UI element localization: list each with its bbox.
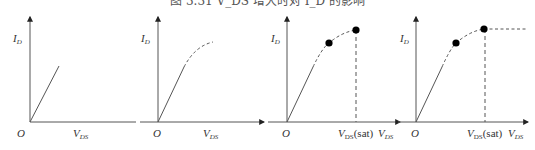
x-axis-label: VDS <box>203 127 219 141</box>
x-axis-label: VDS <box>73 127 89 141</box>
panel-3: ID O VDS(sat) VDS <box>268 17 400 141</box>
linear-region-line <box>287 67 313 122</box>
saturation-point-dot <box>352 26 359 33</box>
panel-4: ID O VDS(sat) VDS <box>398 17 528 141</box>
diagram-canvas: ID O VDS ID O VDS ID O VDS(sat) VDS <box>0 0 535 150</box>
origin-label: O <box>282 127 290 139</box>
saturation-point-dot <box>480 25 487 32</box>
origin-label: O <box>153 127 161 139</box>
linear-region-line <box>30 66 59 122</box>
origin-label: O <box>411 127 419 139</box>
y-axis-label: ID <box>12 32 22 46</box>
curve-point-dot <box>325 39 332 46</box>
curve-point-dot <box>452 39 459 46</box>
panel-1: ID O VDS <box>12 17 136 141</box>
linear-region-line <box>416 67 442 122</box>
y-axis-label: ID <box>399 32 409 46</box>
origin-label: O <box>17 127 25 139</box>
dashed-curve <box>313 30 356 67</box>
panel-2: ID O VDS <box>140 17 264 141</box>
y-axis-label: ID <box>140 32 150 46</box>
x-axis-label: VDS <box>508 127 524 141</box>
x-axis-label: VDS <box>378 127 394 141</box>
dashed-curve <box>184 42 213 67</box>
y-axis-label: ID <box>270 32 280 46</box>
vds-sat-label: VDS(sat) <box>467 127 503 141</box>
vds-sat-label: VDS(sat) <box>338 127 374 141</box>
dashed-curve <box>442 29 484 67</box>
linear-region-line <box>158 67 184 122</box>
